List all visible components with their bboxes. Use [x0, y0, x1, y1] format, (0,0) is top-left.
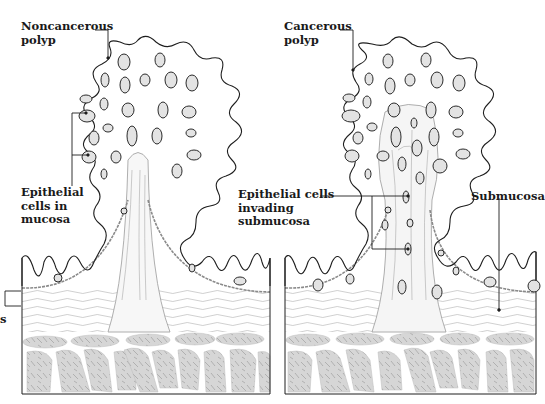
label-line: Noncancerous	[21, 20, 113, 34]
label-line: s	[0, 313, 6, 327]
label-line: submucosa	[238, 215, 334, 229]
left-muscle-layer	[22, 332, 270, 394]
label-line: Cancerous	[284, 20, 352, 34]
label-epithelial-cells-invading-submucosa: Epithelial cells invading submucosa	[238, 188, 334, 229]
label-submucosa: Submucosa	[471, 190, 545, 204]
label-line: Epithelial	[21, 186, 84, 200]
label-partial-left-edge: s	[0, 313, 6, 327]
label-line: Epithelial cells	[238, 188, 334, 202]
label-line: mucosa	[21, 213, 84, 227]
label-line: polyp	[21, 34, 113, 48]
label-line: cells in	[21, 200, 84, 214]
label-cancerous-polyp: Cancerous polyp	[284, 20, 352, 47]
label-noncancerous-polyp: Noncancerous polyp	[21, 20, 113, 47]
label-epithelial-cells-in-mucosa: Epithelial cells in mucosa	[21, 186, 84, 227]
label-line: Submucosa	[471, 190, 545, 204]
label-line: polyp	[284, 34, 352, 48]
label-line: invading	[238, 202, 334, 216]
right-muscle-layer	[285, 332, 536, 394]
